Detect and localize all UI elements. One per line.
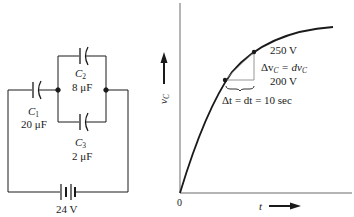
y-axis-label: vC bbox=[158, 90, 172, 108]
x-axis-arrowhead bbox=[290, 203, 301, 210]
diagram-canvas bbox=[0, 0, 354, 217]
c2-label: C2 bbox=[75, 68, 86, 82]
lower-point-label: 200 V bbox=[270, 76, 297, 87]
delta-v-label: ΔvC = dvC bbox=[261, 62, 307, 76]
graph bbox=[161, 3, 353, 210]
c2-value: 8 μF bbox=[72, 82, 92, 93]
charging-curve bbox=[180, 27, 333, 193]
c3-value: 2 μF bbox=[72, 151, 92, 162]
delta-t-label: Δt = dt = 10 sec bbox=[222, 95, 292, 106]
battery-symbol bbox=[61, 184, 75, 200]
y-axis-arrowhead bbox=[161, 52, 168, 63]
c3-label: C3 bbox=[75, 137, 86, 151]
curve-point-lower bbox=[223, 78, 227, 82]
battery-value: 24 V bbox=[56, 204, 78, 215]
c1-value: 20 μF bbox=[21, 119, 47, 130]
x-axis-label: t bbox=[259, 201, 262, 212]
origin-label: 0 bbox=[177, 197, 182, 208]
delta-t-brace bbox=[226, 86, 254, 91]
upper-point-label: 250 V bbox=[270, 45, 297, 56]
curve-point-upper bbox=[252, 50, 256, 54]
